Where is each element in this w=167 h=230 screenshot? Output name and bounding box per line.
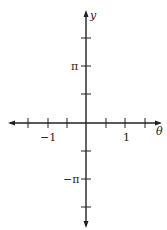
x-tick-label-neg1: −1 [40, 131, 56, 144]
y-axis-top-arrow-icon [84, 10, 89, 17]
y-tick-label-pi: π [71, 60, 78, 73]
x-axis-label: θ [156, 125, 163, 138]
coordinate-axes: y θ −1 1 π −π [0, 0, 167, 230]
y-axis-label: y [89, 9, 97, 22]
x-axis-left-arrow-icon [8, 121, 15, 126]
y-tick-label-neg-pi: −π [63, 173, 79, 186]
x-tick-label-1: 1 [123, 131, 130, 144]
y-axis-bottom-arrow-icon [84, 221, 89, 228]
